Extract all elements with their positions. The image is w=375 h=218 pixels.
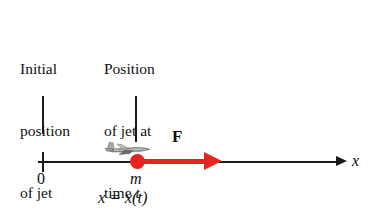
annotation-initial-position: Initial position of jet	[20, 18, 70, 218]
leader-line-initial-position	[42, 96, 44, 134]
mass-point-marker	[130, 154, 145, 169]
leader-line-current-position	[135, 96, 137, 142]
mass-label: m	[130, 170, 142, 188]
annotation-initial-position-line-2: position	[20, 121, 70, 142]
airplane-icon	[104, 137, 152, 157]
position-function-label: x = x(t)	[98, 188, 148, 208]
force-vector-shaft	[137, 159, 209, 164]
force-vector-arrowhead-icon	[204, 152, 222, 170]
origin-tick-mark	[42, 152, 44, 172]
x-axis-label: x	[352, 152, 359, 170]
origin-label: 0	[37, 170, 45, 188]
annotation-current-position-line-1: Position	[104, 59, 155, 80]
force-vector-label: F	[172, 127, 182, 147]
x-axis-arrowhead-icon	[336, 156, 347, 166]
physics-diagram-newtons-second-law: Initial position of jet Position of jet …	[0, 0, 375, 218]
annotation-initial-position-line-1: Initial	[20, 59, 70, 80]
